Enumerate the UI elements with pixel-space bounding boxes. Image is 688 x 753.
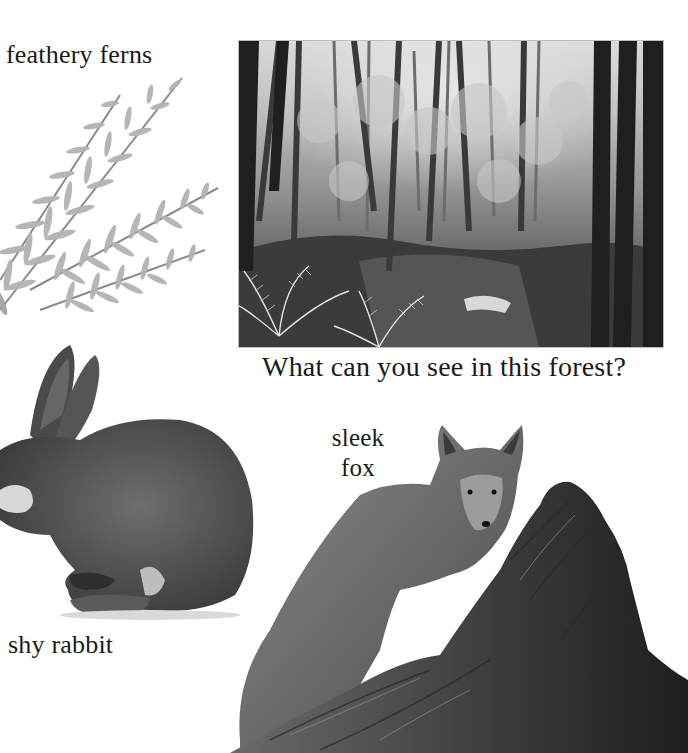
fern-image (0, 70, 230, 320)
ferns-caption: feathery ferns (6, 40, 152, 70)
forest-photo (238, 40, 664, 348)
fox-caption-line1: sleek (328, 423, 388, 453)
fox-image (230, 420, 688, 753)
rabbit-caption: shy rabbit (8, 630, 113, 660)
rabbit-image (0, 340, 260, 620)
fox-caption-line2: fox (328, 453, 388, 483)
forest-question: What can you see in this forest? (262, 352, 626, 382)
fox-caption: sleek fox (328, 423, 388, 483)
